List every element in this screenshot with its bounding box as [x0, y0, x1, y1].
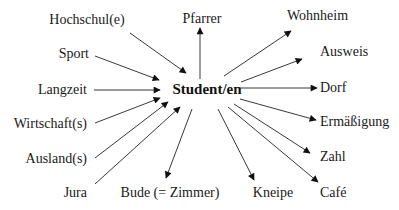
node-pfarrer: Pfarrer	[183, 11, 222, 26]
labels-group: Hochschul(e)PfarrerWohnheimSportAusweisL…	[14, 8, 390, 201]
node-ausland: Ausland(s)	[26, 151, 88, 167]
arrow-zahl	[234, 104, 310, 153]
arrows-group	[94, 28, 318, 184]
arrow-sport	[95, 56, 159, 80]
arrow-ausland	[95, 102, 168, 158]
node-langzeit: Langzeit	[38, 82, 87, 97]
node-bude: Bude (= Zimmer)	[121, 185, 220, 201]
arrow-wirtschaft	[95, 98, 160, 123]
center-node-student: Student/en	[172, 81, 242, 97]
node-ausweis: Ausweis	[320, 44, 368, 59]
arrow-bude	[166, 109, 192, 178]
node-zahl: Zahl	[320, 149, 346, 164]
node-ermaessigung: Ermäßigung	[320, 114, 389, 129]
arrow-ermaessigung	[240, 99, 316, 120]
arrow-cafe	[228, 107, 318, 182]
arrow-wohnheim	[224, 31, 291, 76]
arrow-kneipe	[218, 109, 254, 180]
node-wohnheim: Wohnheim	[287, 8, 348, 23]
node-kneipe: Kneipe	[253, 185, 293, 200]
node-hochschule: Hochschul(e)	[49, 12, 125, 28]
arrow-hochschule	[130, 33, 186, 73]
node-cafe: Café	[320, 185, 346, 200]
word-association-diagram: Hochschul(e)PfarrerWohnheimSportAusweisL…	[0, 0, 399, 210]
node-dorf: Dorf	[320, 80, 347, 95]
node-sport: Sport	[59, 46, 89, 61]
arrow-ausweis	[241, 59, 302, 82]
node-jura: Jura	[64, 185, 88, 200]
node-wirtschaft: Wirtschaft(s)	[14, 116, 88, 132]
